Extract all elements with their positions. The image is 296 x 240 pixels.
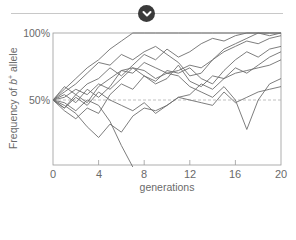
x-tick-4: 4: [87, 168, 111, 180]
x-axis-ticks: [99, 160, 236, 165]
x-tick-0: 0: [41, 168, 65, 180]
trajectory-pop5: [53, 60, 281, 103]
trajectory-pop4: [53, 46, 281, 118]
x-tick-16: 16: [223, 168, 247, 180]
y-axis-label: Frequency of b+ allele: [7, 33, 20, 163]
trajectory-pop8: [53, 68, 281, 130]
plot-frame: [53, 33, 281, 165]
x-tick-12: 12: [178, 168, 202, 180]
trajectory-pop7: [53, 100, 133, 167]
x-tick-8: 8: [132, 168, 156, 180]
x-tick-20: 20: [269, 168, 293, 180]
x-axis-label: generations: [137, 181, 197, 193]
trajectory-pop10: [53, 52, 281, 114]
trajectory-lines: [53, 33, 281, 167]
